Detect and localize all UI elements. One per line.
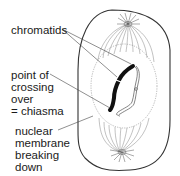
label-line: chromatids: [11, 24, 67, 36]
label-line: point of: [11, 69, 64, 81]
label-line: = chiasma: [11, 105, 64, 117]
cell-membrane: [78, 10, 170, 171]
label-nuclear-membrane: nuclear membrane breaking down: [15, 125, 70, 173]
chromatid-light: [117, 66, 140, 116]
label-line: nuclear: [15, 125, 70, 137]
label-line: over: [11, 93, 64, 105]
chromatid-dark: [110, 66, 133, 110]
label-chiasma: point of crossing over = chiasma: [11, 69, 64, 117]
label-line: membrane: [15, 137, 70, 149]
spindle-top: [98, 24, 154, 62]
spindle-bottom: [99, 118, 149, 152]
label-line: breaking: [15, 149, 70, 161]
label-line: crossing: [11, 81, 64, 93]
label-line: down: [15, 161, 70, 173]
label-chromatids: chromatids: [11, 24, 67, 36]
